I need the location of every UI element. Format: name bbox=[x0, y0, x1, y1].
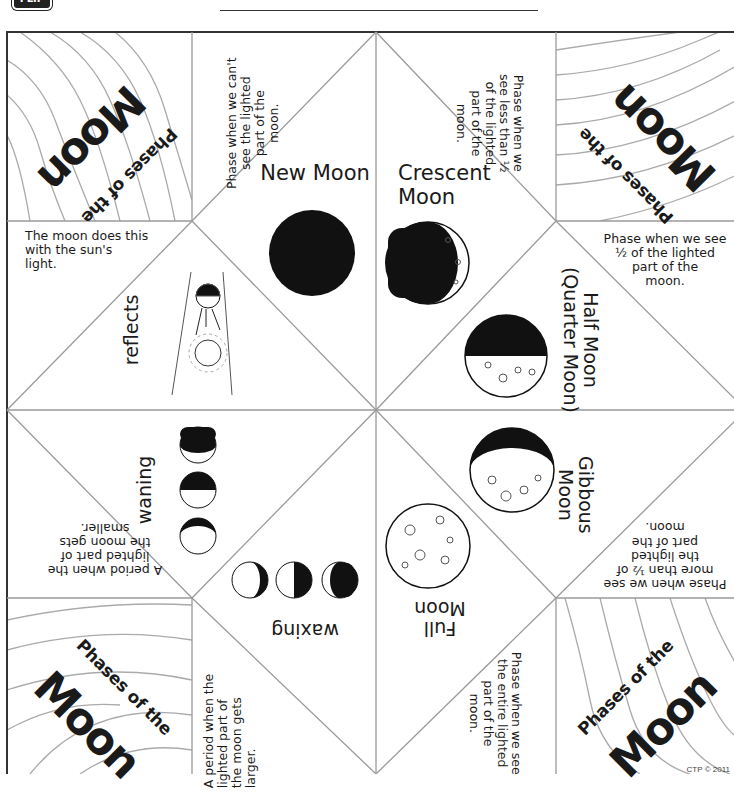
definition-half-moon: Phase when we see ½ of the lighted part … bbox=[590, 232, 734, 289]
waxing-moons-icon bbox=[232, 562, 358, 598]
definition-gibbous: Phase when we see more than ½ of the lig… bbox=[590, 520, 734, 591]
copyright: CTP © 2011 bbox=[687, 765, 730, 774]
term-waxing: waxing bbox=[250, 620, 360, 640]
definition-waning: A period when the lighted part of the mo… bbox=[25, 520, 185, 577]
definition-full-moon: Phase when we see the entire lighted par… bbox=[467, 633, 524, 793]
term-crescent-moon: Crescent Moon bbox=[398, 162, 528, 209]
term-reflects: reflects bbox=[122, 270, 142, 390]
definition-reflects: The moon does this with the sun's light. bbox=[25, 229, 185, 271]
crescent-moon-icon bbox=[385, 222, 469, 304]
new-moon-icon bbox=[269, 210, 355, 296]
definition-waxing: A period when the lighted part of the mo… bbox=[202, 638, 259, 788]
term-half-moon: Half Moon (Quarter Moon) bbox=[560, 265, 600, 415]
term-gibbous-moon: Gibbous Moon bbox=[555, 440, 595, 550]
full-moon-icon bbox=[386, 504, 470, 588]
term-new-moon: New Moon bbox=[250, 162, 380, 186]
half-moon-icon bbox=[465, 315, 547, 397]
waning-moons-icon bbox=[180, 427, 216, 554]
term-waning: waning bbox=[135, 430, 155, 550]
term-full-moon: Full Moon bbox=[395, 598, 485, 638]
gibbous-moon-icon bbox=[470, 428, 554, 512]
sun-reflection-icon bbox=[172, 272, 232, 395]
